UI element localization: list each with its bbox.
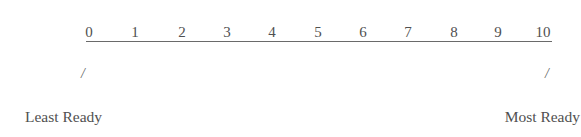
tick-4: 4 xyxy=(268,24,276,40)
most-ready-label: Most Ready xyxy=(505,108,580,126)
tick-7: 7 xyxy=(404,24,412,40)
least-ready-label: Least Ready xyxy=(25,108,102,126)
tick-8: 8 xyxy=(450,24,458,40)
scale-line xyxy=(86,41,552,42)
left-marker: / xyxy=(81,66,85,82)
tick-0: 0 xyxy=(85,24,93,40)
right-marker: / xyxy=(545,66,549,82)
tick-1: 1 xyxy=(131,24,139,40)
tick-5: 5 xyxy=(314,24,322,40)
tick-9: 9 xyxy=(494,24,502,40)
tick-3: 3 xyxy=(223,24,231,40)
tick-6: 6 xyxy=(359,24,367,40)
readiness-scale: 0 1 2 3 4 5 6 7 8 9 10 xyxy=(86,24,552,44)
tick-10: 10 xyxy=(536,24,551,40)
tick-2: 2 xyxy=(178,24,186,40)
